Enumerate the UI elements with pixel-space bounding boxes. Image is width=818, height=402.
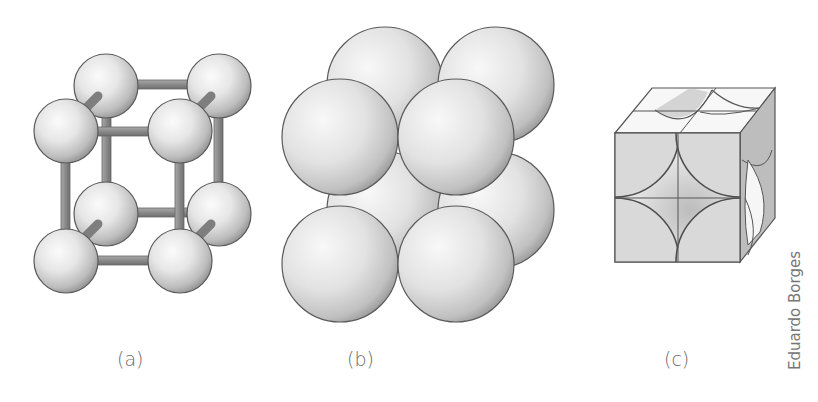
panel-label-c: (c) — [664, 348, 689, 370]
panel-label-a: (a) — [117, 348, 143, 370]
panel-b-space-filling — [282, 27, 554, 322]
panel-label-b: (b) — [347, 348, 374, 370]
crystal-structure-figure — [0, 0, 818, 402]
image-credit: Eduardo Borges — [786, 251, 804, 370]
panel-a-ball-and-stick — [34, 54, 251, 293]
panel-c-unit-cell — [551, 69, 804, 326]
